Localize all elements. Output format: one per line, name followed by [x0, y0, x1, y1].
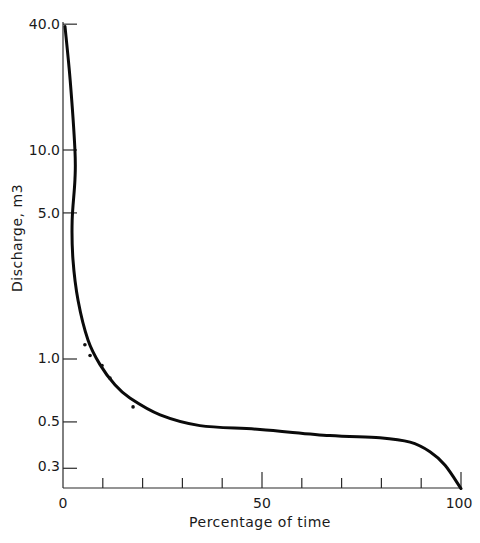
data-point — [131, 405, 135, 409]
y-tick-label-5: 5.0 — [38, 205, 60, 221]
data-point — [83, 343, 87, 347]
x-tick-label-100: 100 — [446, 495, 473, 511]
y-tick-label-1: 1.0 — [38, 350, 60, 366]
plot-area — [63, 22, 462, 489]
x-tick-label-50: 50 — [253, 495, 271, 511]
flow-duration-curve — [65, 26, 461, 488]
data-point — [88, 354, 92, 358]
data-point — [100, 364, 104, 368]
x-axis-title: Percentage of time — [189, 514, 331, 530]
x-axis-ticks — [103, 472, 461, 488]
y-tick-label-0-5: 0.5 — [38, 413, 60, 429]
flow-duration-chart: 40.0 10.0 5.0 1.0 0.5 0.3 0 50 100 Perce… — [0, 0, 480, 543]
y-axis-title: Discharge, m3 — [9, 184, 25, 292]
y-tick-label-40: 40.0 — [29, 16, 60, 32]
data-point — [108, 376, 112, 380]
y-tick-label-10: 10.0 — [29, 142, 60, 158]
y-tick-label-0-3: 0.3 — [38, 458, 60, 474]
x-tick-label-0: 0 — [59, 495, 68, 511]
